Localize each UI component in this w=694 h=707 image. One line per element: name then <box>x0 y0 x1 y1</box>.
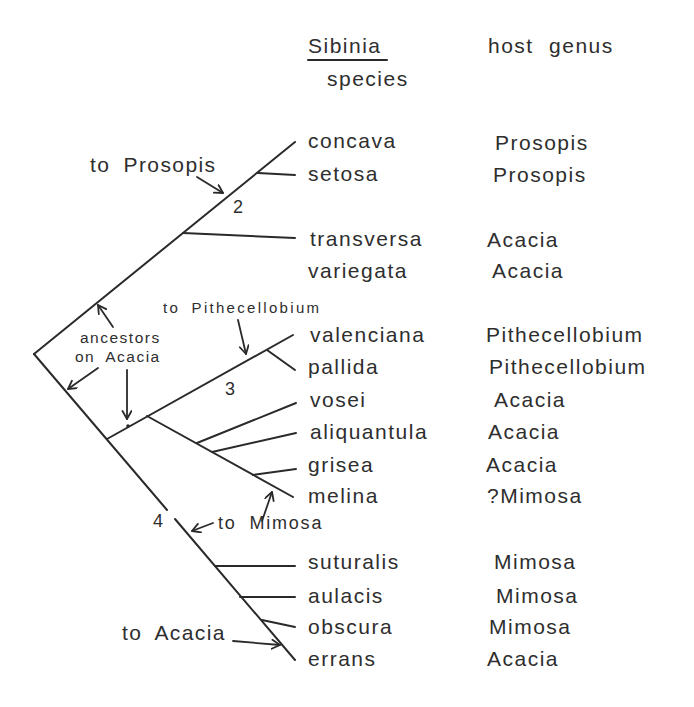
annotation-to-pithecellobium: to Pithecellobium <box>163 299 321 316</box>
species-name: concava <box>308 129 397 152</box>
species-name: setosa <box>308 162 379 185</box>
column-headers: Sibinia species host genus <box>308 34 614 90</box>
arrow-icon-ancestors-upper <box>98 305 113 327</box>
species-name: vosei <box>310 388 367 411</box>
phylogeny-host-shift-diagram: Sibinia species host genus 2 3 4 to Pr <box>0 0 694 707</box>
branch-transversa <box>183 233 295 238</box>
host-genus: Acacia <box>492 259 564 282</box>
host-genus: Acacia <box>487 647 559 670</box>
species-name: grisea <box>308 453 374 476</box>
branch-setosa <box>258 173 295 175</box>
species-name: aulacis <box>308 584 384 607</box>
species-name: suturalis <box>308 550 400 573</box>
species-name: pallida <box>308 355 379 378</box>
species-name: melina <box>308 484 379 507</box>
arrow-icon-to-pithecellobium <box>238 320 246 354</box>
species-name: errans <box>308 647 377 670</box>
annotation-to-mimosa: to Mimosa <box>218 513 323 533</box>
annotation-ancestors: ancestors <box>80 329 161 346</box>
node-label-4: 4 <box>153 511 163 531</box>
branch-pallida <box>267 350 295 370</box>
species-name: transversa <box>310 227 423 250</box>
host-genus: Acacia <box>486 453 558 476</box>
branch-melina-lineage <box>147 416 293 497</box>
host-genus: Pithecellobium <box>489 355 647 378</box>
host-genus: Acacia <box>488 420 560 443</box>
arrow-icon-to-prosopis <box>197 177 223 193</box>
host-genus: Prosopis <box>493 163 587 186</box>
node-label-2: 2 <box>233 197 243 217</box>
branch-grisea <box>253 469 296 475</box>
branch-lower-main-a <box>34 354 167 510</box>
host-genus: Mimosa <box>489 615 572 638</box>
species-list: concava setosa transversa variegata vale… <box>308 129 428 670</box>
host-genus: Prosopis <box>495 131 589 154</box>
species-name: obscura <box>308 615 393 638</box>
host-genus: Acacia <box>494 388 566 411</box>
host-genus: Mimosa <box>494 550 577 573</box>
annotation-to-prosopis: to Prosopis <box>90 153 216 176</box>
host-genus: Acacia <box>487 228 559 251</box>
arrow-icon-to-acacia <box>233 641 280 645</box>
species-column-subtitle: species <box>327 67 409 90</box>
ancestral-node-dot <box>126 424 130 428</box>
annotation-to-acacia: to Acacia <box>122 621 226 644</box>
host-genus: Pithecellobium <box>486 323 644 346</box>
node-label-3: 3 <box>225 379 235 399</box>
annotation-on-acacia: on Acacia <box>75 348 161 365</box>
branch-aliquantula <box>212 433 296 452</box>
host-shift-annotations: to Prosopis to Pithecellobium ancestors … <box>68 153 323 645</box>
host-genus: Mimosa <box>496 584 579 607</box>
host-genus: ?Mimosa <box>487 484 583 507</box>
species-name: valenciana <box>310 323 425 346</box>
arrow-icon-ancestors-lower <box>68 368 98 389</box>
phylogenetic-tree <box>34 142 296 660</box>
species-name: variegata <box>308 259 408 282</box>
species-name: aliquantula <box>310 420 428 443</box>
arrow-icon-to-mimosa-left <box>192 523 213 531</box>
host-genus-list: Prosopis Prosopis Acacia Acacia Pithecel… <box>486 131 647 670</box>
species-column-title: Sibinia <box>308 34 382 57</box>
host-genus-column-title: host genus <box>488 34 614 57</box>
